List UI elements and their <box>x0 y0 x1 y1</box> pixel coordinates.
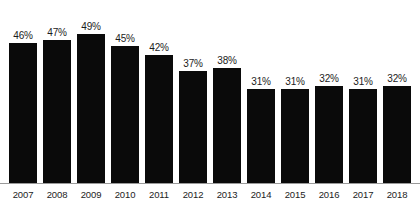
bar <box>383 86 411 183</box>
bar-value-label: 31% <box>277 76 313 87</box>
x-tick-label-2009: 2009 <box>73 188 109 201</box>
bar <box>111 46 139 183</box>
bar-value-label: 32% <box>311 73 347 84</box>
bar-chart-figure: 46%47%49%45%42%37%38%31%31%32%31%32% 200… <box>0 0 420 206</box>
x-tick-label-2016: 2016 <box>311 188 347 201</box>
x-tick-label-2010: 2010 <box>107 188 143 201</box>
bar-value-label: 32% <box>379 73 415 84</box>
x-tick-label-2017: 2017 <box>345 188 381 201</box>
x-tick-label-2012: 2012 <box>175 188 211 201</box>
bar-value-label: 31% <box>345 76 381 87</box>
bar <box>281 89 309 183</box>
x-tick-label-2013: 2013 <box>209 188 245 201</box>
bar-value-label: 38% <box>209 55 245 66</box>
x-tick-label-2018: 2018 <box>379 188 415 201</box>
bar-value-label: 47% <box>39 27 75 38</box>
bar <box>213 68 241 183</box>
bar-value-label: 45% <box>107 33 143 44</box>
bar <box>349 89 377 183</box>
bar <box>145 55 173 183</box>
plot-area: 46%47%49%45%42%37%38%31%31%32%31%32% <box>0 0 420 183</box>
bar <box>247 89 275 183</box>
x-axis-tick-labels: 2007200820092010201120122013201420152016… <box>0 188 420 204</box>
bar-value-label: 37% <box>175 58 211 69</box>
x-tick-label-2015: 2015 <box>277 188 313 201</box>
x-tick-label-2014: 2014 <box>243 188 279 201</box>
bar <box>77 34 105 183</box>
bar-value-label: 31% <box>243 76 279 87</box>
bar <box>9 43 37 183</box>
x-tick-label-2008: 2008 <box>39 188 75 201</box>
x-axis-line <box>0 183 420 184</box>
bar-value-label: 49% <box>73 21 109 32</box>
bar-value-label: 42% <box>141 42 177 53</box>
bar <box>179 71 207 183</box>
x-tick-label-2011: 2011 <box>141 188 177 201</box>
bar <box>43 40 71 183</box>
bar-value-label: 46% <box>5 30 41 41</box>
bar <box>315 86 343 183</box>
x-tick-label-2007: 2007 <box>5 188 41 201</box>
